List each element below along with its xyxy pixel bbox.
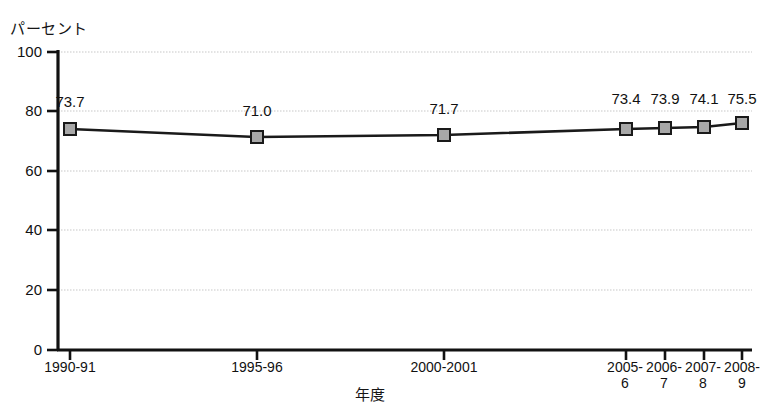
chart-plot-area [0,0,772,411]
data-point-markers [64,117,748,143]
data-series-line [70,123,742,137]
y-tick-label-40: 40 [0,221,42,238]
y-tick-label-100b: 100 [0,43,42,60]
y-tick-label-20: 20 [0,281,42,298]
value-label-2000-2001: 71.7 [414,100,474,117]
value-label-1995-96: 71.0 [227,102,287,119]
x-axis-title: 年度 [0,383,740,404]
y-tick-label-0: 0 [0,341,42,358]
x-tick-label-1990-91: 1990-91 [20,360,120,376]
x-tick-label-1995-96: 1995-96 [207,360,307,376]
gridlines [58,52,752,290]
value-label-1990-91: 73.7 [40,93,100,110]
value-label-2008-9: 75.5 [713,90,771,107]
chart-container: パーセント [0,0,772,411]
x-tick-label-2000-2001: 2000-2001 [389,360,499,376]
y-tick-label-80: 80 [0,102,42,119]
y-tick-label-60: 60 [0,162,42,179]
